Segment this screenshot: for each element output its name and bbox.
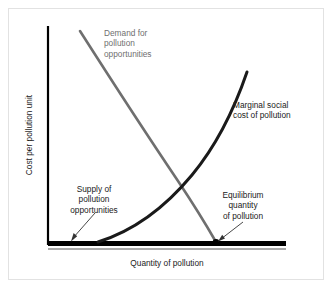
plot-area	[0, 0, 334, 290]
equilibrium-annotation-arrow	[218, 222, 243, 242]
equilibrium-point-marker	[213, 239, 220, 246]
y-axis-title: Cost per pollution unit	[24, 80, 34, 190]
x-axis-title: Quantity of pollution	[48, 258, 286, 268]
chart-figure: Demand for pollution opportunities Margi…	[0, 0, 334, 290]
supply-annotation-arrow	[71, 213, 95, 242]
supply-curve-label: Supply of pollution opportunities	[56, 184, 132, 215]
equilibrium-label: Equilibrium quantity of pollution	[208, 190, 278, 221]
marginal-social-cost-label: Marginal social cost of pollution	[233, 100, 291, 121]
demand-curve-label: Demand for pollution opportunities	[104, 28, 152, 59]
